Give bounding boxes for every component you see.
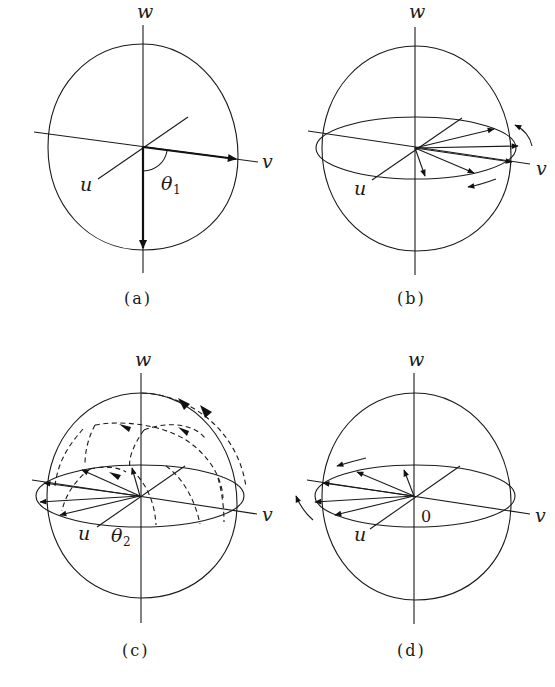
u-label: u bbox=[78, 522, 90, 544]
caption-b: (b) bbox=[397, 289, 426, 308]
svg-text:2: 2 bbox=[123, 535, 131, 549]
vector-v bbox=[143, 147, 236, 159]
w-label: w bbox=[135, 348, 151, 370]
svg-text:θ: θ bbox=[161, 172, 173, 194]
bloch-sphere-figure: w v u θ 1 (a) w v u (b) bbox=[0, 0, 555, 687]
caption-d: (d) bbox=[397, 641, 426, 660]
panel-b: w v u (b) bbox=[308, 0, 547, 308]
theta1-arc bbox=[143, 151, 167, 171]
panel-d: w v u 0 (d) bbox=[296, 348, 546, 660]
v-label: v bbox=[536, 157, 547, 179]
u-label: u bbox=[354, 177, 366, 199]
rotation-arrow-left-top bbox=[337, 458, 366, 466]
meridian-arrowheads bbox=[109, 398, 212, 480]
svg-text:1: 1 bbox=[173, 183, 181, 197]
caption-a: (a) bbox=[124, 289, 152, 308]
w-label: w bbox=[408, 348, 424, 370]
theta1-label: θ 1 bbox=[161, 172, 181, 197]
rotation-arrow-left bbox=[468, 179, 496, 187]
rotation-arrow-up bbox=[515, 125, 532, 146]
panel-c: w v u θ 2 (c) bbox=[32, 348, 273, 660]
v-label: v bbox=[535, 504, 546, 526]
v-label: v bbox=[262, 150, 273, 172]
dashed-meridians bbox=[55, 393, 246, 525]
theta2-label: θ 2 bbox=[111, 524, 131, 549]
u-label: u bbox=[354, 523, 366, 545]
rotation-arrow-up-left bbox=[296, 496, 313, 520]
precessing-vectors bbox=[415, 129, 518, 176]
w-label: w bbox=[409, 0, 425, 22]
svg-text:θ: θ bbox=[111, 524, 123, 546]
w-label: w bbox=[137, 0, 153, 22]
v-label: v bbox=[262, 503, 273, 525]
panel-a: w v u θ 1 (a) bbox=[34, 0, 273, 308]
caption-c: (c) bbox=[122, 641, 149, 660]
origin-label: 0 bbox=[421, 507, 431, 526]
u-label: u bbox=[80, 173, 92, 195]
